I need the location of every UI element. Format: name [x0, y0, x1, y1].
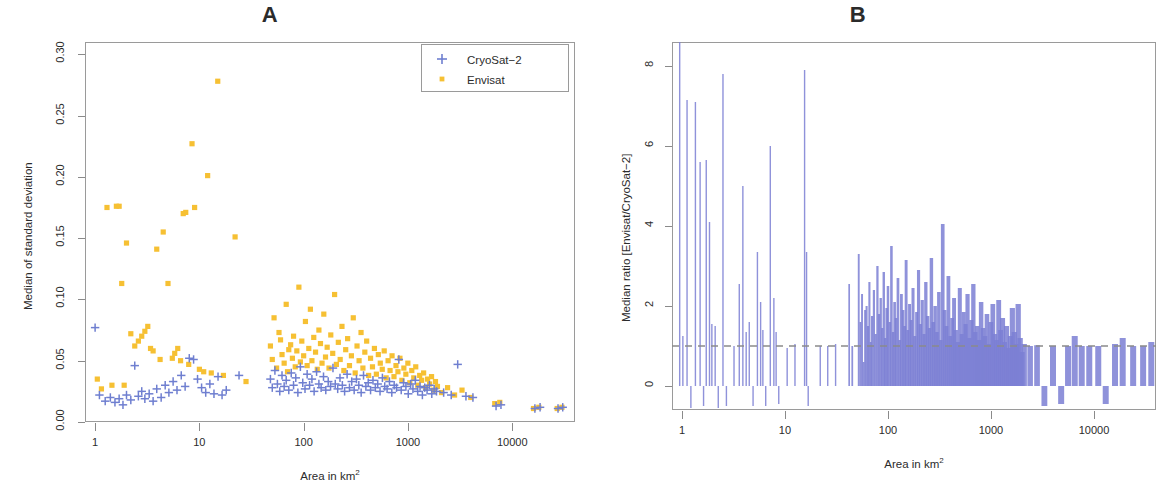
data-point-square: [316, 327, 321, 332]
data-point-plus: [276, 387, 284, 395]
data-point-plus: [296, 363, 304, 371]
bar: [703, 386, 704, 406]
bar: [871, 316, 873, 386]
data-point-plus: [282, 376, 290, 384]
data-point-square: [345, 336, 350, 341]
data-point-plus: [127, 396, 135, 404]
panel-a-y-axis-label: Median of standard deviation: [22, 162, 34, 310]
data-point-square: [284, 302, 289, 307]
data-point-plus: [181, 382, 189, 390]
bar: [765, 386, 766, 406]
data-point-square: [421, 370, 426, 375]
data-point-plus: [447, 391, 455, 399]
bar: [848, 284, 850, 386]
data-point-square: [305, 363, 310, 368]
panel-b-x-tick: [888, 411, 889, 419]
panel-a-x-tick-label: 1000: [378, 436, 438, 448]
data-point-square: [429, 374, 434, 379]
data-point-plus: [202, 388, 210, 396]
panel-b-x-tick-label: 10: [755, 424, 815, 436]
data-point-plus: [289, 381, 297, 389]
data-point-plus: [266, 375, 274, 383]
panel-a-y-tick-label: 0.25: [54, 97, 66, 131]
data-point-square: [299, 338, 304, 343]
data-point-square: [232, 234, 237, 239]
data-point-plus: [185, 354, 193, 362]
panel-b-y-tick: [665, 66, 672, 67]
data-point-square: [303, 319, 308, 324]
bar: [682, 336, 683, 386]
data-point-plus: [197, 383, 205, 391]
data-point-square: [349, 353, 354, 358]
bar: [1034, 345, 1040, 386]
bar: [726, 386, 727, 406]
bar: [733, 346, 734, 386]
data-point-square: [157, 357, 162, 362]
data-point-plus: [303, 370, 311, 378]
data-point-square: [351, 315, 356, 320]
data-point-plus: [161, 381, 169, 389]
panel-b: B Median ratio [Envisat/CryoSat−2] Area …: [600, 0, 1156, 490]
data-point-square: [368, 356, 373, 361]
data-point-square: [282, 361, 287, 366]
bar: [804, 70, 805, 386]
data-point-square: [318, 341, 323, 346]
data-point-square: [376, 352, 381, 357]
data-point-square: [183, 210, 188, 215]
panel-b-y-tick-label: 4: [643, 213, 655, 235]
bar: [775, 332, 776, 386]
data-point-square: [459, 388, 464, 393]
data-point-square: [189, 141, 194, 146]
data-point-square: [364, 338, 369, 343]
data-point-plus: [210, 390, 218, 398]
panel-a-y-tick: [78, 361, 85, 362]
bar: [690, 386, 691, 408]
panel-a-y-tick-label: 0.00: [54, 403, 66, 437]
data-point-square: [370, 364, 375, 369]
data-point-square: [321, 312, 326, 317]
data-point-square: [165, 281, 170, 286]
data-point-square: [309, 358, 314, 363]
bar: [1079, 346, 1085, 386]
data-point-plus: [193, 375, 201, 383]
data-point-square: [301, 353, 306, 358]
panel-a-x-tick-label: 10: [169, 436, 229, 448]
bar: [762, 330, 763, 386]
bar: [773, 298, 774, 386]
series-median-ratio: [679, 42, 1154, 408]
bar: [679, 42, 680, 386]
panel-b-y-axis-label: Median ratio [Envisat/CryoSat−2]: [620, 154, 632, 322]
data-point-plus: [292, 374, 300, 382]
bar: [778, 386, 779, 404]
data-point-square: [271, 315, 276, 320]
bar: [820, 346, 821, 386]
data-point-square: [119, 281, 124, 286]
bar: [1130, 346, 1136, 386]
data-point-plus: [157, 393, 165, 401]
data-point-square: [319, 361, 324, 366]
data-point-square: [132, 343, 137, 348]
data-point-plus: [91, 323, 99, 331]
data-point-square: [154, 247, 159, 252]
data-point-square: [362, 350, 367, 355]
data-point-square: [353, 370, 358, 375]
panel-a-y-tick-label: 0.10: [54, 280, 66, 314]
panel-b-x-tick: [1094, 411, 1095, 419]
bar: [835, 344, 836, 386]
data-point-square: [276, 330, 281, 335]
panel-b-y-tick: [665, 306, 672, 307]
panel-b-y-tick: [665, 226, 672, 227]
legend-item-envisat: Envisat: [431, 72, 505, 88]
data-point-square: [215, 79, 220, 84]
data-point-square: [306, 346, 311, 351]
data-point-square: [139, 334, 144, 339]
panel-a-y-tick-label: 0.20: [54, 158, 66, 192]
data-point-square: [95, 376, 100, 381]
panel-a-x-tick: [512, 423, 513, 431]
data-point-square: [145, 324, 150, 329]
data-point-plus: [469, 393, 477, 401]
panel-a-y-tick-label: 0.30: [54, 35, 66, 69]
data-point-plus: [119, 401, 127, 409]
data-point-square: [380, 367, 385, 372]
data-point-square: [336, 340, 341, 345]
